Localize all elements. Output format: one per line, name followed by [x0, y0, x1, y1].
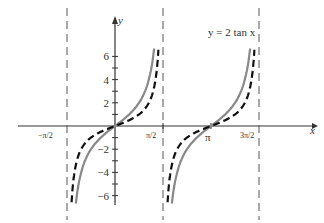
plot-area: −6−4−2246	[0, 0, 324, 223]
y-axis-label: y	[118, 14, 123, 26]
chart: −6−4−2246 y = 2 tan x y x π −π/2 π/2 3π/…	[0, 0, 324, 223]
x-axis-label: x	[310, 124, 315, 136]
svg-text:6: 6	[104, 50, 110, 62]
x-tick-3pi2: 3π/2	[240, 131, 254, 140]
svg-text:−4: −4	[97, 166, 109, 178]
svg-text:2: 2	[104, 97, 110, 109]
x-tick-neg-pi2: −π/2	[38, 131, 53, 140]
x-tick-pi: π	[205, 131, 211, 143]
svg-text:−2: −2	[97, 143, 109, 155]
chart-title: y = 2 tan x	[208, 26, 255, 38]
svg-text:−6: −6	[97, 190, 109, 202]
x-tick-pi2: π/2	[146, 131, 156, 140]
svg-text:4: 4	[104, 74, 110, 86]
